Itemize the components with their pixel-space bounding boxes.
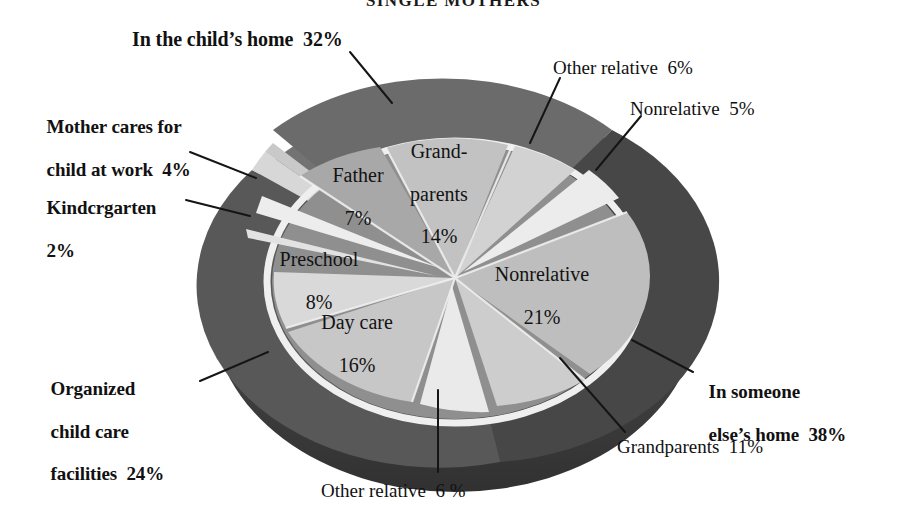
slice-label-grandparents-line1: Grand- [411, 140, 468, 162]
callout-organized-child-care-facilities: Organized child care facilities 24% [32, 357, 164, 506]
slice-label-nonrelative-name: Nonrelative [495, 263, 589, 285]
callout-mother-work-line1: Mother cares for [47, 116, 182, 137]
callout-kindergarten-line1: Kindcrgarten [47, 197, 157, 218]
callout-organized-line3: facilities 24% [51, 463, 165, 484]
slice-label-father-pct: 7% [345, 207, 372, 229]
callout-someone-else-line1: In someone [709, 381, 800, 402]
callout-nonrelative-top: Nonrelative 5% [630, 98, 755, 119]
callout-in-the-childs-home: In the child’s home 32% [132, 28, 343, 50]
slice-label-grandparents-line2: parents [410, 183, 468, 205]
slice-label-grandparents-pct: 14% [421, 225, 458, 247]
callout-other-relative-top: Other relative 6% [553, 57, 693, 78]
slice-label-nonrelative: Nonrelative 21% [468, 243, 596, 349]
callout-grandparents-bottom-right: Grandparents 11% [617, 436, 763, 457]
slice-label-day-care: Day care 16% [292, 291, 402, 397]
leader-mother-work [190, 152, 256, 178]
slice-label-grandparents: Grand- parents 14% [381, 120, 477, 268]
callout-organized-line1: Organized [51, 378, 136, 399]
callout-other-relative-bottom: Other relative 6 % [321, 480, 466, 501]
slice-label-nonrelative-pct: 21% [524, 306, 561, 328]
slice-label-day-care-name: Day care [321, 311, 393, 333]
callout-kindergarten-line2: 2% [47, 240, 75, 261]
pie-chart-figure: SINGLE MOTHERS [0, 0, 907, 520]
callout-organized-line2: child care [51, 421, 129, 442]
callout-kindergarten: Kindcrgarten 2% [28, 176, 156, 282]
slice-label-preschool-name: Preschool [280, 248, 359, 270]
slice-label-father-name: Father [332, 164, 383, 186]
slice-label-day-care-pct: 16% [339, 354, 376, 376]
